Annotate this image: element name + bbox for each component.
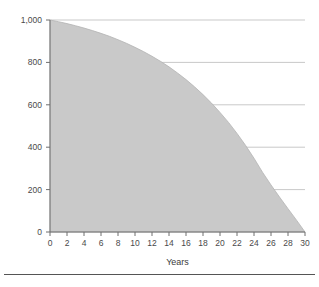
- x-axis-group: [50, 232, 305, 236]
- x-tick-label-30: 30: [300, 238, 310, 248]
- area-series-group: [50, 20, 305, 232]
- x-tick-label-22: 22: [232, 238, 242, 248]
- y-tick-label-600: 600: [28, 100, 42, 110]
- y-tick-label-200: 200: [28, 185, 42, 195]
- x-tick-label-26: 26: [266, 238, 276, 248]
- y-tick-label-0: 0: [37, 227, 42, 237]
- x-tick-label-10: 10: [130, 238, 140, 248]
- x-tick-label-14: 14: [164, 238, 174, 248]
- y-tick-labels-group: 02004006008001,000: [21, 15, 43, 237]
- y-tick-label-400: 400: [28, 142, 42, 152]
- x-tick-label-0: 0: [48, 238, 53, 248]
- area-series-remaining-balance: [50, 20, 305, 232]
- x-tick-label-16: 16: [181, 238, 191, 248]
- chart-plot-svg: 02004006008001,000 024681012141618202224…: [0, 0, 319, 287]
- x-axis-title: Years: [166, 257, 189, 267]
- x-tick-label-12: 12: [147, 238, 157, 248]
- x-tick-label-18: 18: [198, 238, 208, 248]
- x-tick-label-28: 28: [283, 238, 293, 248]
- x-tick-label-24: 24: [249, 238, 259, 248]
- x-tick-labels-group: 024681012141618202224262830: [48, 238, 310, 248]
- y-axis-group: [46, 20, 50, 232]
- x-tick-label-4: 4: [82, 238, 87, 248]
- y-tick-label-1000: 1,000: [21, 15, 43, 25]
- x-tick-label-2: 2: [65, 238, 70, 248]
- chart-figure: 02004006008001,000 024681012141618202224…: [0, 0, 319, 287]
- y-tick-label-800: 800: [28, 57, 42, 67]
- x-tick-label-20: 20: [215, 238, 225, 248]
- x-tick-label-8: 8: [116, 238, 121, 248]
- x-tick-label-6: 6: [99, 238, 104, 248]
